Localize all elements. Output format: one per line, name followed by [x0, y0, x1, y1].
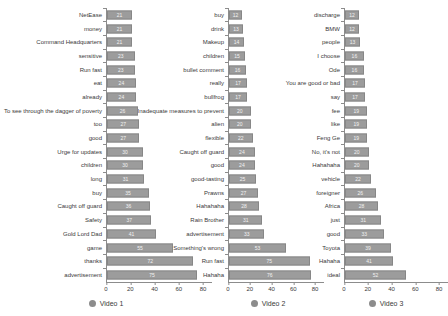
category-label: really: [210, 80, 224, 86]
chart-row: Safety37: [0, 213, 212, 227]
bar: 41: [345, 257, 393, 266]
bar-track: 55: [106, 241, 203, 255]
bar: 52: [345, 270, 406, 279]
category-label-cell: Run fast: [212, 254, 228, 268]
chart-row: good24: [212, 159, 324, 173]
bar-value-label: 12: [349, 26, 355, 31]
bar-value-label: 39: [365, 245, 371, 250]
legend-label: Video 3: [380, 300, 404, 307]
bar: 26: [107, 106, 138, 115]
category-label-cell: Hahahaha: [212, 200, 228, 214]
category-label-cell: good: [212, 159, 228, 173]
bar-track: 16: [344, 63, 439, 77]
x-axis: 020406080: [228, 282, 324, 296]
bar-value-label: 37: [126, 218, 132, 223]
bar-track: 72: [106, 254, 203, 268]
category-label-cell: too: [0, 118, 106, 132]
bar-value-label: 17: [235, 81, 241, 86]
bar-track: 27: [106, 118, 203, 132]
bar: 33: [345, 229, 384, 238]
bar: 31: [229, 216, 262, 225]
bar: 24: [229, 161, 255, 170]
category-label-cell: Africa: [324, 200, 344, 214]
legend-dot-icon: [251, 300, 258, 307]
chart-row: game55: [0, 241, 212, 255]
x-axis-ticks: 020406080: [106, 283, 203, 296]
chart-row: Prawns27: [212, 186, 324, 200]
bar-track: 17: [228, 90, 315, 104]
category-label: Urge for updates: [57, 149, 102, 155]
chart-row: Toyota39: [324, 241, 448, 255]
category-label: Makeup: [203, 39, 224, 45]
category-label-cell: fee: [324, 104, 344, 118]
bar-track: 17: [344, 76, 439, 90]
bar: 39: [345, 243, 391, 252]
bar-track: 53: [228, 241, 315, 255]
category-label: ideal: [327, 272, 340, 278]
bar-value-label: 20: [237, 122, 243, 127]
bar: 27: [107, 120, 139, 129]
x-tick-label: 80: [200, 286, 207, 292]
bar-value-label: 24: [239, 163, 245, 168]
bar-track: 76: [228, 268, 315, 282]
chart-row: buy35: [0, 186, 212, 200]
category-label-cell: Caught off guard: [212, 145, 228, 159]
category-label-cell: Inadequate measures to prevent: [212, 104, 228, 118]
chart-row: children15: [212, 49, 324, 63]
category-label: buy: [214, 12, 224, 18]
bar-value-label: 12: [349, 12, 355, 17]
category-label: alien: [211, 121, 224, 127]
bar-track: 30: [106, 145, 203, 159]
bar-value-label: 24: [239, 149, 245, 154]
bar-track: 39: [344, 241, 439, 255]
bar-value-label: 30: [122, 149, 128, 154]
x-tick-label: 60: [412, 286, 419, 292]
category-label-cell: foreigner: [324, 186, 344, 200]
bar: 21: [107, 10, 132, 19]
chart-row: sensitive23: [0, 49, 212, 63]
bar-track: 26: [344, 186, 439, 200]
bar-track: 16: [228, 63, 315, 77]
category-label: To see through the dagger of poverty: [4, 108, 102, 114]
bar-value-label: 41: [129, 231, 135, 236]
category-label: foreigner: [316, 190, 340, 196]
category-label: money: [84, 26, 102, 32]
bar: 20: [345, 161, 369, 170]
bar-value-label: 21: [117, 26, 123, 31]
bar: 20: [345, 147, 369, 156]
chart-row: flexible22: [212, 131, 324, 145]
category-label: NetEase: [79, 12, 102, 18]
bar-value-label: 19: [353, 108, 359, 113]
bar-value-label: 20: [237, 108, 243, 113]
bar-value-label: 23: [118, 67, 124, 72]
bar: 17: [229, 79, 247, 88]
bar-value-label: 27: [120, 136, 126, 141]
bar: 55: [107, 243, 173, 252]
legend-dot-icon: [369, 300, 376, 307]
category-label: children: [203, 53, 224, 59]
bar-track: 25: [228, 172, 315, 186]
category-label-cell: Makeup: [212, 35, 228, 49]
chart-row: eat24: [0, 76, 212, 90]
category-label-cell: like: [324, 118, 344, 132]
category-label-cell: No, it's not: [324, 145, 344, 159]
chart-row: buy12: [212, 8, 324, 22]
bar-value-label: 55: [137, 245, 143, 250]
x-axis: 020406080: [106, 282, 212, 296]
chart-row: Something's wrong53: [212, 241, 324, 255]
legend-label: Video 2: [262, 300, 286, 307]
category-label: people: [322, 39, 340, 45]
x-tick-label: 40: [268, 286, 275, 292]
bar: 16: [345, 65, 364, 74]
chart-row: I choose16: [324, 49, 448, 63]
bar-track: 19: [344, 118, 439, 132]
x-tick-label: 0: [226, 286, 229, 292]
bar-value-label: 20: [354, 149, 360, 154]
chart-row: money21: [0, 22, 212, 36]
chart-row: thanks72: [0, 254, 212, 268]
category-label: buy: [92, 190, 102, 196]
chart-row: already24: [0, 90, 212, 104]
bar: 36: [107, 202, 150, 211]
chart-row: Run fast75: [212, 254, 324, 268]
bar: 26: [345, 188, 376, 197]
